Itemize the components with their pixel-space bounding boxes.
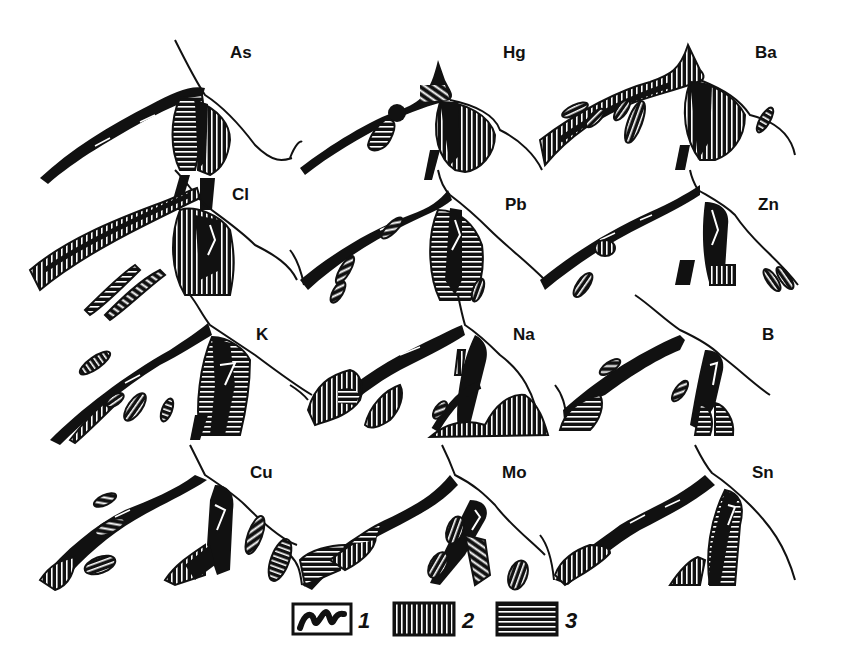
legend-number-1: 1 bbox=[358, 608, 370, 633]
legend-number-3: 3 bbox=[565, 608, 577, 633]
panel-na bbox=[290, 295, 548, 437]
legend-item-2: 2 bbox=[394, 603, 475, 635]
panel-zn bbox=[540, 170, 798, 300]
panel-ba bbox=[540, 45, 795, 170]
panel-hg bbox=[290, 60, 542, 180]
legend: 1 2 3 bbox=[293, 603, 577, 635]
panel-label-cu: Cu bbox=[250, 463, 273, 482]
panel-b bbox=[555, 295, 770, 435]
panel-label-as: As bbox=[230, 43, 252, 62]
panel-label-zn: Zn bbox=[758, 195, 779, 214]
panel-label-pb: Pb bbox=[505, 195, 527, 214]
legend-number-2: 2 bbox=[461, 608, 475, 633]
panel-label-hg: Hg bbox=[503, 43, 526, 62]
panel-label-mo: Mo bbox=[502, 463, 527, 482]
panel-label-sn: Sn bbox=[752, 463, 774, 482]
panel-k bbox=[50, 295, 312, 445]
panel-label-ba: Ba bbox=[755, 43, 777, 62]
panel-label-na: Na bbox=[513, 325, 535, 344]
panel-cl bbox=[30, 170, 297, 320]
panel-label-b: B bbox=[762, 325, 774, 344]
legend-item-1: 1 bbox=[293, 604, 370, 634]
panel-pb bbox=[290, 170, 545, 305]
panel-label-cl: Cl bbox=[232, 185, 249, 204]
panel-as bbox=[40, 40, 292, 210]
legend-item-3: 3 bbox=[497, 603, 577, 635]
element-distribution-figure: As Hg Ba Cl bbox=[0, 0, 845, 668]
panel-label-k: K bbox=[256, 325, 269, 344]
